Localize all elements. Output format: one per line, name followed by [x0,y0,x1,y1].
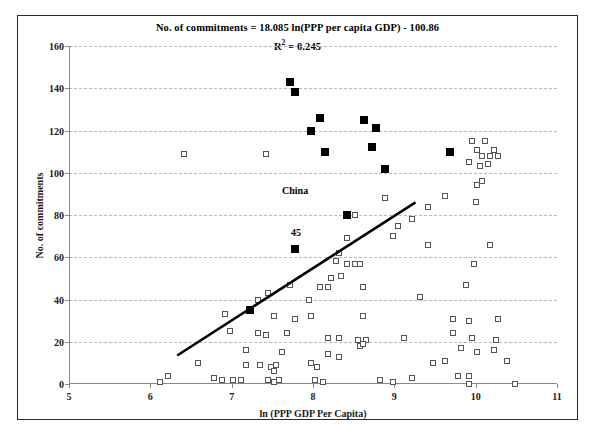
x-tick-label: 7 [229,391,234,402]
point-annotation: China [282,184,308,195]
figure: No. of commitments = 18.085 ln(PPP per c… [0,0,596,445]
regression-equation: No. of commitments = 18.085 ln(PPP per c… [18,22,577,33]
x-tick-label: 11 [552,391,561,402]
y-tick-label: 40 [54,294,64,305]
y-axis-label: No. of commitments [32,46,48,384]
x-tick-mark [476,384,477,388]
x-tick-label: 6 [148,391,153,402]
x-tick-label: 10 [471,391,481,402]
x-tick-label: 5 [67,391,72,402]
trend-line [69,46,557,384]
y-tick-label: 140 [49,83,64,94]
y-tick-label: 20 [54,336,64,347]
point-annotation: 45 [291,226,301,237]
x-tick-label: 8 [311,391,316,402]
x-tick-mark [232,384,233,388]
x-tick-mark [557,384,558,388]
y-tick-label: 120 [49,125,64,136]
x-tick-mark [150,384,151,388]
y-tick-label: 80 [54,210,64,221]
y-tick-label: 60 [54,252,64,263]
y-tick-label: 160 [49,41,64,52]
figure-caption [36,432,576,444]
x-axis-label: ln (PPP GDP Per Capita) [69,408,557,419]
x-tick-label: 9 [392,391,397,402]
x-tick-mark [313,384,314,388]
y-axis-label-text: No. of commitments [35,172,46,258]
chart-frame: No. of commitments = 18.085 ln(PPP per c… [17,15,578,420]
plot-area: 020406080100120140160 567891011 China45 [69,46,557,384]
x-tick-mark [69,384,70,388]
y-tick-label: 0 [59,379,64,390]
y-tick-label: 100 [49,167,64,178]
